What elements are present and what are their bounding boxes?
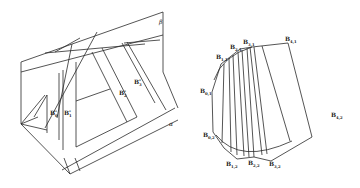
floor-connector bbox=[76, 117, 137, 147]
b3-strip-right bbox=[127, 42, 166, 110]
ruling-2 bbox=[229, 58, 231, 152]
vertex-label-b12: B1,2 bbox=[226, 160, 238, 169]
right-figure: B4,1 B3,1 B2,1 B1,1 B0,1 B0,2 B1,2 B2,2 … bbox=[200, 35, 343, 169]
ruling-3 bbox=[233, 55, 237, 155]
b1-b2-connector bbox=[76, 89, 110, 101]
vertex-label-b32: B3,2 bbox=[269, 160, 281, 169]
corner-line-1 bbox=[21, 95, 45, 124]
lower-arc bbox=[216, 135, 292, 152]
beta-label: β bbox=[158, 18, 163, 26]
b2-star-label: B*2 bbox=[119, 89, 127, 98]
vertex-label-b22: B2,2 bbox=[248, 159, 260, 168]
b1-star-label: B*1 bbox=[64, 109, 72, 118]
alpha-bottom-edge bbox=[70, 120, 178, 174]
ruling-9 bbox=[262, 46, 290, 141]
ruling-1 bbox=[222, 64, 224, 143]
vertex-label-b41: B4,1 bbox=[285, 35, 297, 44]
vertex-label-b21: B2,1 bbox=[230, 43, 242, 52]
alpha-label: α bbox=[169, 120, 173, 127]
vertex-label-b01: B0,1 bbox=[200, 87, 212, 96]
left-figure: β α B*0 B*1 B*2 B*3 bbox=[21, 12, 178, 174]
diagram-canvas: β α B*0 B*1 B*2 B*3 B4,1 B3,1 B2,1 B1,1 … bbox=[0, 0, 360, 188]
vertex-label-b31: B3,1 bbox=[243, 38, 255, 47]
corner-line-4 bbox=[21, 124, 47, 130]
alpha-inner-line bbox=[62, 108, 175, 170]
alpha-right-edge bbox=[163, 72, 178, 108]
b3-star-label: B*3 bbox=[134, 78, 142, 87]
vertex-label-b11: B1,1 bbox=[216, 53, 228, 62]
alpha-small-edge-2 bbox=[75, 158, 80, 171]
vertex-label-b42: B4,2 bbox=[331, 111, 343, 120]
beta-top-edge bbox=[21, 12, 163, 62]
b3-strip-left bbox=[122, 43, 155, 103]
